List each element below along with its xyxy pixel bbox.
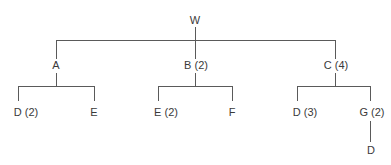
edge-w-a — [56, 40, 57, 59]
edge-level1-bar — [56, 40, 336, 41]
edge-b-stem — [195, 73, 196, 86]
edge-w-stem — [195, 27, 196, 41]
edge-b-bar — [158, 86, 233, 87]
edge-a-d — [18, 86, 19, 101]
edge-a-stem — [56, 73, 57, 86]
edge-c-stem — [335, 73, 336, 86]
edge-g-d — [370, 121, 371, 142]
edge-b-f — [232, 86, 233, 101]
edge-a-e — [94, 86, 95, 101]
edge-w-b — [195, 40, 196, 59]
node-a-d: D (2) — [14, 106, 38, 118]
node-b: B (2) — [184, 59, 208, 71]
node-g-d: D — [367, 144, 375, 156]
node-w: W — [190, 14, 200, 26]
edge-c-d — [297, 86, 298, 101]
tree-diagram: W A D (2) E B (2) E (2) F C (4) D (3) G … — [0, 0, 391, 165]
edge-c-g — [370, 86, 371, 101]
edge-c-bar — [297, 86, 371, 87]
edge-w-c — [335, 40, 336, 59]
node-c-g: G (2) — [359, 106, 384, 118]
node-a: A — [52, 59, 59, 71]
edge-b-e — [158, 86, 159, 101]
node-b-f: F — [229, 106, 236, 118]
node-c: C (4) — [324, 59, 348, 71]
node-a-e: E — [90, 106, 97, 118]
node-b-e: E (2) — [154, 106, 178, 118]
node-c-d: D (3) — [293, 106, 317, 118]
edge-a-bar — [18, 86, 95, 87]
